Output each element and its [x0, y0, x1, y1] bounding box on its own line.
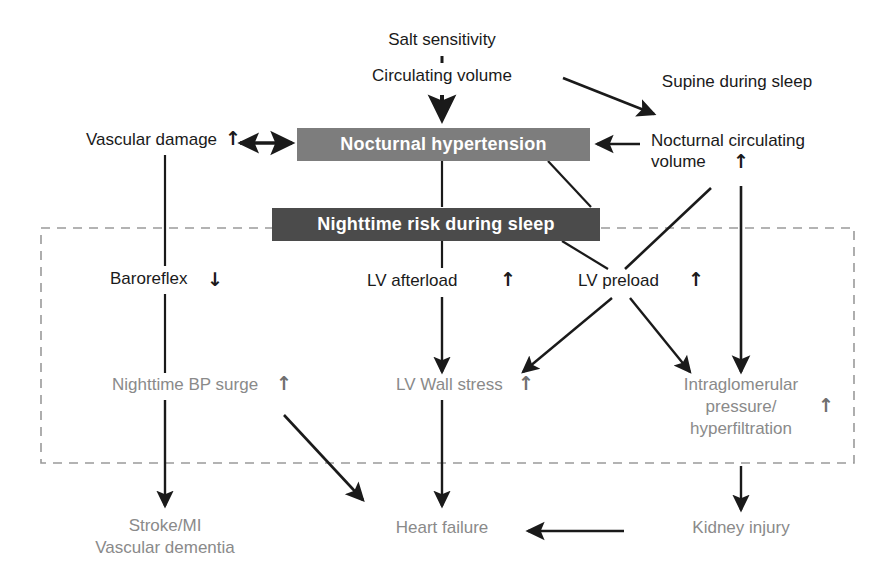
node-intraglomerular-line3: hyperfiltration: [690, 419, 792, 439]
node-lv-wall-stress: LV Wall stress: [396, 375, 503, 395]
node-baroreflex: Baroreflex: [110, 269, 187, 289]
edge-circulating-to-ncv: [563, 78, 654, 114]
node-lv-preload: LV preload: [578, 271, 659, 291]
node-lv-afterload: LV afterload: [367, 271, 457, 291]
edge-lv-preload-to-wall-stress: [523, 298, 612, 372]
edge-lv-preload-to-intraglomerular: [630, 298, 690, 372]
edge-nr-to-lv-preload: [562, 241, 608, 269]
lv-wall-stress-up-arrow-icon: ↑: [518, 374, 534, 393]
lv-preload-up-arrow-icon: ↑: [688, 270, 704, 289]
node-circulating-volume: Circulating volume: [372, 66, 512, 86]
node-vascular-dementia: Vascular dementia: [95, 538, 235, 558]
bar-nocturnal-hypertension-label: Nocturnal hypertension: [340, 134, 546, 155]
lv-afterload-up-arrow-icon: ↑: [500, 270, 516, 289]
bar-nocturnal-hypertension: Nocturnal hypertension: [297, 128, 590, 161]
node-salt-sensitivity: Salt sensitivity: [388, 30, 496, 50]
node-intraglomerular-line2: pressure/: [706, 397, 777, 417]
edge-nh-right-to-nr-right: [548, 161, 591, 207]
bar-nighttime-risk-label: Nighttime risk during sleep: [317, 214, 554, 235]
node-stroke-mi: Stroke/MI: [129, 516, 202, 536]
node-heart-failure: Heart failure: [396, 518, 489, 538]
node-nocturnal-circulating-volume-line2: volume: [651, 152, 706, 172]
node-nighttime-bp-surge: Nighttime BP surge: [112, 375, 258, 395]
node-nocturnal-circulating-volume-line1: Nocturnal circulating: [651, 131, 805, 151]
edge-bp-surge-to-heart-failure: [284, 415, 363, 500]
vascular-damage-up-arrow-icon: ↑: [225, 129, 241, 148]
diagram-canvas: Salt sensitivity Circulating volume Supi…: [0, 0, 887, 583]
node-intraglomerular-line1: Intraglomerular: [684, 375, 798, 395]
node-supine-during-sleep: Supine during sleep: [662, 72, 812, 92]
baroreflex-down-arrow-icon: ↓: [207, 270, 223, 289]
node-vascular-damage: Vascular damage: [86, 130, 217, 150]
nighttime-bp-surge-up-arrow-icon: ↑: [276, 374, 292, 393]
intraglomerular-up-arrow-icon: ↑: [818, 396, 834, 415]
nocturnal-circulating-volume-up-arrow-icon: ↑: [733, 152, 749, 171]
bar-nighttime-risk-during-sleep: Nighttime risk during sleep: [272, 208, 600, 241]
node-kidney-injury: Kidney injury: [692, 518, 789, 538]
